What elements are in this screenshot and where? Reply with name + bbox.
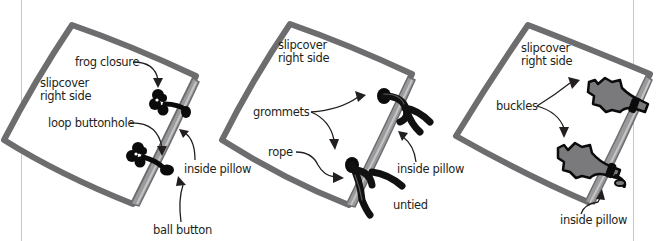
label-inside-pillow: inside pillow (560, 213, 627, 227)
arrow-inside-pillow (179, 129, 195, 160)
label-untied: untied (393, 198, 428, 212)
label-rope: rope (268, 145, 293, 159)
label-slipcover-line2: right side (40, 89, 91, 103)
panel-frog-closure: frog closure slipcover right side loop b… (4, 25, 251, 237)
ball-button (160, 165, 174, 176)
slipcover-closures-diagram: frog closure slipcover right side loop b… (0, 0, 671, 241)
label-slipcover-line1: slipcover (278, 38, 328, 52)
label-buckles: buckles (496, 99, 538, 113)
arrow-ball-button (176, 176, 186, 222)
slipcover-front (4, 25, 196, 204)
label-grommets: grommets (253, 105, 310, 119)
label-slipcover-line2: right side (521, 54, 572, 68)
label-loop-buttonhole: loop buttonhole (48, 116, 134, 130)
label-ball-button: ball button (153, 223, 212, 237)
label-slipcover-line1: slipcover (40, 76, 90, 90)
label-slipcover-line2: right side (278, 51, 329, 65)
panel-grommets: slipcover right side grommets rope insid… (222, 24, 464, 215)
arrow-inside-pillow (398, 131, 416, 162)
label-inside-pillow: inside pillow (397, 162, 464, 176)
label-slipcover-line1: slipcover (521, 41, 571, 55)
label-frog-closure: frog closure (75, 55, 140, 69)
label-inside-pillow: inside pillow (184, 162, 251, 176)
panel-buckles: slipcover right side buckles inside pill… (456, 25, 652, 227)
